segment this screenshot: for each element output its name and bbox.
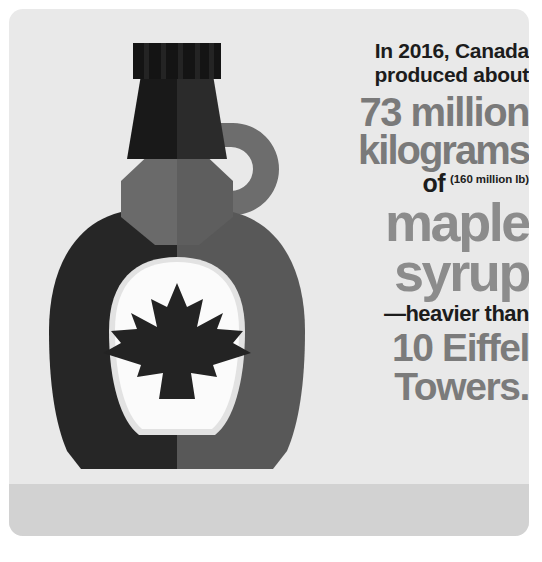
- lead-line-1: In 2016, Canada: [327, 39, 529, 63]
- jug-cap: [133, 43, 221, 79]
- lead-line-2: produced about: [327, 63, 529, 87]
- comparison-line-1: 10 Eiffel: [327, 328, 529, 367]
- product-text: maple syrup: [327, 197, 529, 297]
- comparison-line-2: Towers.: [327, 367, 529, 406]
- amount-line-1: 73 million: [327, 93, 529, 131]
- maple-syrup-jug-illustration: [37, 31, 317, 494]
- conversion-note: (160 million lb): [450, 174, 529, 186]
- product-line-1: maple: [327, 197, 529, 247]
- comparison-text: 10 Eiffel Towers.: [327, 328, 529, 406]
- amount-text: 73 million kilograms: [327, 93, 529, 170]
- product-line-2: syrup: [327, 247, 529, 297]
- infographic-poster: In 2016, Canada produced about 73 millio…: [0, 0, 542, 562]
- comparison-lead: —heavier than: [327, 303, 529, 325]
- poster-card: In 2016, Canada produced about 73 millio…: [9, 9, 529, 536]
- lead-text: In 2016, Canada produced about: [327, 39, 529, 86]
- headline-text-block: In 2016, Canada produced about 73 millio…: [327, 39, 529, 406]
- amount-line-2: kilograms: [327, 131, 529, 169]
